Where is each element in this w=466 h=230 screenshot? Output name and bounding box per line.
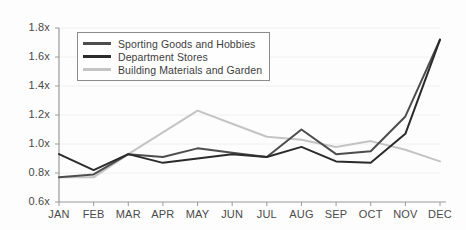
legend-item[interactable]: Sporting Goods and Hobbies [83, 37, 262, 50]
legend-item[interactable]: Department Stores [83, 50, 262, 63]
y-axis-tick-label: 1.2x [8, 108, 50, 120]
y-axis-tick-label: 0.6x [8, 195, 50, 207]
legend-item-label: Building Materials and Garden [118, 64, 262, 76]
legend-item[interactable]: Building Materials and Garden [83, 63, 262, 76]
y-axis-tick-label: 1.8x [8, 21, 50, 33]
x-axis-tick-label: DEC [420, 208, 460, 220]
chart-figure: 1.8x1.6x1.4x1.2x1.0x0.8x0.6x JANFEBMARAP… [0, 0, 466, 230]
y-axis-tick-label: 1.4x [8, 79, 50, 91]
chart-legend: Sporting Goods and HobbiesDepartment Sto… [77, 32, 270, 81]
legend-color-swatch [83, 55, 111, 58]
legend-item-label: Department Stores [118, 51, 208, 63]
legend-item-label: Sporting Goods and Hobbies [118, 38, 255, 50]
legend-color-swatch [83, 68, 111, 71]
y-axis-tick-label: 1.6x [8, 50, 50, 62]
y-axis-tick-label: 1.0x [8, 137, 50, 149]
y-axis-tick-label: 0.8x [8, 166, 50, 178]
legend-color-swatch [83, 42, 111, 45]
